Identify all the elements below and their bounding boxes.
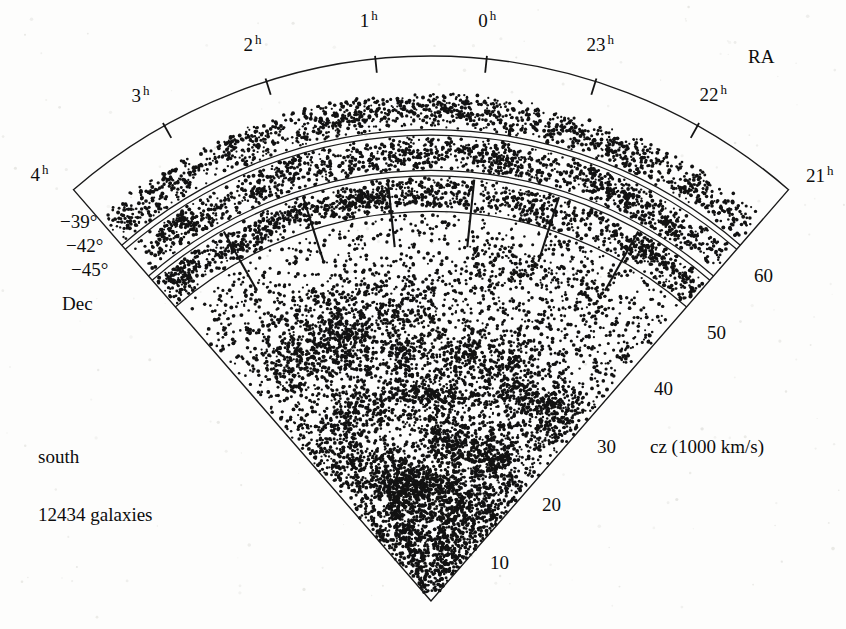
galaxy-point: [308, 242, 311, 245]
galaxy-point: [162, 252, 165, 255]
paper-speck: [94, 436, 97, 439]
galaxy-point: [697, 176, 701, 180]
galaxy-point: [536, 177, 539, 180]
galaxy-point: [198, 207, 201, 210]
galaxy-point: [527, 199, 529, 201]
galaxy-point: [433, 449, 435, 451]
galaxy-point: [437, 198, 440, 201]
galaxy-point: [498, 115, 500, 117]
galaxy-point: [422, 481, 425, 484]
galaxy-point: [491, 275, 493, 277]
galaxy-point: [507, 278, 510, 281]
galaxy-point: [521, 110, 525, 114]
galaxy-point: [381, 474, 385, 478]
galaxy-point: [358, 481, 362, 485]
galaxy-point: [269, 190, 272, 193]
galaxy-point: [302, 125, 304, 127]
galaxy-point: [600, 137, 604, 141]
galaxy-point: [432, 138, 435, 141]
galaxy-point: [354, 308, 357, 311]
galaxy-point: [265, 338, 267, 340]
galaxy-point: [344, 363, 347, 366]
galaxy-point: [482, 385, 486, 389]
galaxy-point: [674, 281, 678, 285]
galaxy-point: [427, 454, 430, 457]
galaxy-point: [432, 499, 434, 501]
galaxy-point: [435, 106, 438, 109]
galaxy-point: [407, 406, 410, 409]
galaxy-point: [359, 468, 363, 472]
galaxy-point: [307, 223, 310, 226]
galaxy-point: [244, 294, 248, 298]
galaxy-point: [568, 189, 571, 192]
galaxy-point: [478, 154, 481, 157]
galaxy-point: [421, 475, 424, 478]
galaxy-point: [430, 484, 433, 487]
galaxy-point: [268, 239, 270, 241]
galaxy-point: [347, 375, 350, 378]
galaxy-point: [338, 421, 341, 424]
galaxy-point: [151, 245, 153, 247]
galaxy-point: [421, 195, 425, 199]
galaxy-point: [352, 465, 356, 469]
galaxy-point: [363, 383, 366, 386]
galaxy-point: [469, 538, 472, 541]
galaxy-point: [637, 239, 639, 241]
galaxy-point: [491, 184, 495, 188]
galaxy-point: [567, 366, 570, 369]
galaxy-point: [446, 120, 448, 122]
galaxy-point: [351, 393, 354, 396]
galaxy-point: [711, 210, 715, 214]
galaxy-point: [122, 227, 125, 230]
galaxy-point: [179, 288, 182, 291]
galaxy-point: [382, 457, 385, 460]
galaxy-point: [509, 406, 513, 410]
galaxy-point: [188, 163, 190, 165]
galaxy-point: [408, 200, 412, 204]
galaxy-point: [320, 455, 322, 457]
galaxy-point: [500, 355, 504, 359]
galaxy-point: [392, 504, 395, 507]
galaxy-point: [203, 303, 206, 306]
galaxy-point: [560, 204, 563, 207]
galaxy-point: [400, 227, 403, 230]
galaxy-point: [266, 390, 270, 394]
galaxy-point: [394, 309, 398, 313]
paper-speck: [716, 166, 718, 168]
galaxy-point: [594, 360, 598, 364]
galaxy-point: [348, 230, 350, 232]
galaxy-point: [595, 200, 597, 202]
galaxy-point: [611, 382, 614, 385]
galaxy-point: [365, 373, 369, 377]
galaxy-point: [454, 356, 457, 359]
galaxy-point: [313, 400, 317, 404]
galaxy-point: [345, 436, 348, 439]
galaxy-point: [480, 505, 483, 508]
galaxy-point: [328, 234, 331, 237]
galaxy-point: [657, 204, 660, 207]
galaxy-point: [439, 478, 441, 480]
galaxy-point: [508, 356, 511, 359]
galaxy-point: [512, 397, 515, 400]
galaxy-point: [494, 453, 497, 456]
galaxy-point: [498, 393, 502, 397]
galaxy-point: [644, 213, 648, 217]
galaxy-point: [557, 131, 561, 135]
galaxy-point: [311, 290, 315, 294]
galaxy-point: [167, 286, 170, 289]
galaxy-point: [645, 206, 648, 209]
galaxy-point: [450, 547, 452, 549]
paper-speck: [774, 525, 775, 526]
galaxy-point: [459, 137, 463, 141]
galaxy-point: [269, 127, 273, 131]
galaxy-point: [190, 225, 193, 228]
galaxy-point: [331, 393, 335, 397]
galaxy-point: [388, 523, 391, 526]
galaxy-point: [389, 98, 392, 101]
galaxy-point: [329, 445, 332, 448]
galaxy-point: [225, 185, 229, 189]
galaxy-point: [323, 138, 326, 141]
galaxy-point: [230, 135, 233, 138]
galaxy-point: [490, 524, 494, 528]
galaxy-point: [493, 244, 497, 248]
